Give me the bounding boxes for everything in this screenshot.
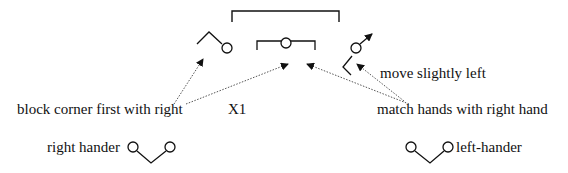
left-hander-symbol	[406, 142, 453, 163]
right-player-circle	[351, 43, 361, 53]
label-left-hander: left-hander	[456, 140, 522, 155]
label-move-slightly-left: move slightly left	[380, 66, 486, 81]
middle-bracket-player	[257, 38, 315, 50]
arrow-block-to-left-player	[174, 59, 203, 104]
arrow-block-to-middle	[186, 64, 288, 104]
right-hander-symbol	[128, 142, 175, 163]
label-block-corner: block corner first with right	[17, 102, 183, 117]
middle-player-circle	[281, 38, 291, 48]
label-right-hander: right hander	[47, 140, 120, 155]
right-player-movement-arrow	[360, 34, 372, 44]
label-x1: X1	[228, 102, 246, 117]
right-player-figure	[343, 34, 372, 75]
label-match-hands: match hands with right hand	[377, 102, 548, 117]
top-bracket	[232, 11, 339, 22]
diagram-canvas: move slightly left match hands with righ…	[0, 0, 568, 173]
dotted-arrows	[174, 59, 409, 104]
left-player-circle	[222, 43, 232, 53]
left-player-figure	[197, 32, 232, 53]
